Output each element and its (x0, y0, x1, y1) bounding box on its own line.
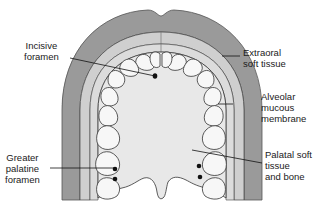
label-palatal-soft-tissue: Palatal soft tissue and bone (265, 149, 312, 182)
label-incisive-foramen: Incisive foramen (24, 40, 59, 62)
label-greater-palatine-foramen: Greater palatine foramen (5, 152, 40, 185)
maxillary-arch-diagram: Incisive foramen Extraoral soft tissue A… (0, 0, 322, 210)
greater-palatine-foramen-right-1 (197, 164, 202, 169)
greater-palatine-foramen-left-1 (113, 167, 118, 172)
label-extraoral-soft-tissue: Extraoral soft tissue (243, 47, 286, 69)
greater-palatine-foramen-left-2 (113, 177, 118, 182)
label-alveolar-mucous-membrane: Alveolar mucous membrane (261, 91, 306, 124)
greater-palatine-foramen-right-2 (198, 175, 203, 180)
